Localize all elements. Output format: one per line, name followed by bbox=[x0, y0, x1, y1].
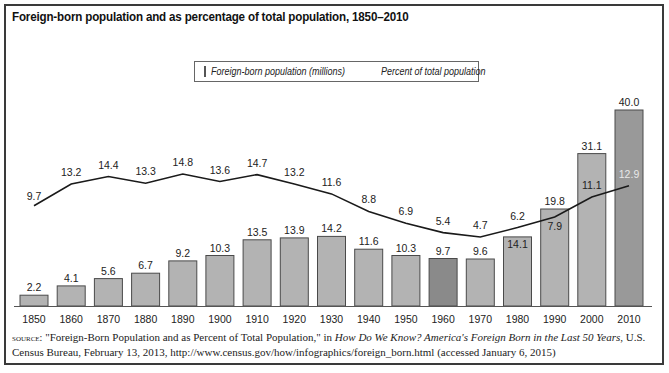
bar-1920 bbox=[280, 238, 308, 306]
source-note: source: "Foreign-Born Population and as … bbox=[12, 330, 662, 359]
percent-value-label: 5.4 bbox=[436, 215, 451, 227]
bar-1880 bbox=[132, 273, 160, 306]
x-tick-label: 1850 bbox=[22, 313, 46, 325]
percent-value-label: 14.7 bbox=[247, 157, 268, 169]
x-tick-label: 1980 bbox=[506, 313, 530, 325]
bar-value-label: 40.0 bbox=[619, 96, 640, 108]
percent-value-label: 7.9 bbox=[547, 220, 562, 232]
source-prefix: source: bbox=[12, 332, 42, 343]
percent-value-label: 13.3 bbox=[135, 165, 156, 177]
x-tick-label: 1970 bbox=[469, 313, 493, 325]
bar-value-label: 9.2 bbox=[175, 247, 190, 259]
bar-1950 bbox=[392, 256, 420, 307]
x-tick-label: 1880 bbox=[134, 313, 158, 325]
bar-2000 bbox=[578, 154, 606, 306]
chart-plot: 1850186018701880189019001910192019301940… bbox=[0, 0, 669, 373]
bar-1960 bbox=[429, 259, 457, 307]
x-tick-label: 1930 bbox=[320, 313, 344, 325]
bar-value-label: 10.3 bbox=[396, 242, 417, 254]
bar-1870 bbox=[94, 279, 122, 306]
x-tick-label: 1860 bbox=[60, 313, 84, 325]
bar-1970 bbox=[466, 259, 494, 306]
bar-value-label: 14.1 bbox=[507, 238, 528, 250]
x-tick-label: 1950 bbox=[394, 313, 418, 325]
bar-value-label: 6.7 bbox=[138, 259, 153, 271]
x-tick-label: 1870 bbox=[97, 313, 121, 325]
x-tick-label: 1990 bbox=[543, 313, 567, 325]
bar-value-label: 10.3 bbox=[210, 242, 231, 254]
percent-value-label: 4.7 bbox=[473, 219, 488, 231]
percent-value-label: 12.9 bbox=[619, 168, 640, 180]
percent-value-label: 13.2 bbox=[284, 166, 305, 178]
bar-value-label: 11.6 bbox=[359, 235, 379, 247]
x-tick-label: 2000 bbox=[580, 313, 604, 325]
percent-value-label: 8.8 bbox=[361, 193, 376, 205]
percent-value-label: 13.6 bbox=[210, 164, 231, 176]
bar-value-label: 9.6 bbox=[473, 245, 488, 257]
bar-value-label: 19.8 bbox=[544, 195, 565, 207]
bar-value-label: 5.6 bbox=[101, 265, 116, 277]
bar-value-label: 13.5 bbox=[247, 226, 268, 238]
bar-1850 bbox=[20, 295, 48, 306]
bar-1940 bbox=[355, 249, 383, 306]
bar-1860 bbox=[57, 286, 85, 306]
percent-value-label: 13.2 bbox=[61, 166, 82, 178]
bar-1900 bbox=[206, 256, 234, 307]
percent-value-label: 6.9 bbox=[399, 205, 414, 217]
x-tick-label: 1910 bbox=[245, 313, 269, 325]
bar-value-label: 13.9 bbox=[284, 224, 305, 236]
bar-1930 bbox=[318, 236, 346, 306]
x-tick-label: 1920 bbox=[283, 313, 307, 325]
x-tick-label: 1960 bbox=[431, 313, 455, 325]
bar-1890 bbox=[169, 261, 197, 306]
x-tick-label: 2010 bbox=[617, 313, 641, 325]
percent-value-label: 11.1 bbox=[582, 179, 602, 191]
x-tick-label: 1940 bbox=[357, 313, 381, 325]
source-title: How Do We Know? America's Foreign Born i… bbox=[335, 331, 620, 343]
percent-value-label: 14.8 bbox=[173, 156, 194, 168]
bar-2010 bbox=[615, 110, 643, 306]
bar-value-label: 14.2 bbox=[321, 222, 342, 234]
x-tick-label: 1890 bbox=[171, 313, 195, 325]
bar-value-label: 31.1 bbox=[582, 140, 603, 152]
percent-value-label: 14.4 bbox=[98, 159, 119, 171]
x-tick-label: 1900 bbox=[208, 313, 232, 325]
percent-value-label: 9.7 bbox=[27, 190, 42, 202]
bar-value-label: 2.2 bbox=[27, 281, 42, 293]
percent-value-label: 11.6 bbox=[322, 176, 342, 188]
bar-value-label: 9.7 bbox=[436, 245, 451, 257]
source-text-1: "Foreign-Born Population and as Percent … bbox=[42, 331, 334, 343]
bar-value-label: 4.1 bbox=[64, 272, 79, 284]
bar-1910 bbox=[243, 240, 271, 306]
percent-value-label: 6.2 bbox=[510, 210, 525, 222]
